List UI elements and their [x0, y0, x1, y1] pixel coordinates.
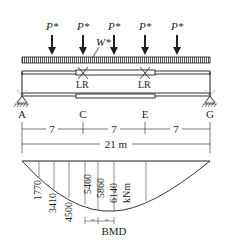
- point-loads: P* P* P* P* P*: [45, 20, 184, 55]
- bmd-value-5: 5860: [95, 178, 106, 198]
- bottom-chord-plate: [76, 94, 155, 98]
- bmd-title: BMD: [101, 225, 126, 237]
- point-load-4: P*: [138, 20, 152, 55]
- bmd-value-2: 3410: [47, 193, 58, 213]
- leader-line: [93, 47, 99, 57]
- dimension-eg: 7: [173, 123, 179, 135]
- bmd-value-4: 5460: [82, 174, 93, 194]
- node-label-a: A: [18, 108, 26, 120]
- node-label-c: C: [79, 108, 86, 120]
- dimension-labels: 7 7 7 21 m: [49, 123, 179, 150]
- pin-support-icon: [17, 96, 27, 103]
- bmd-value-3: 4500: [63, 202, 74, 222]
- node-label-g: G: [206, 108, 214, 120]
- point-load-label: P*: [138, 20, 152, 32]
- dimension-ce: 7: [111, 123, 117, 135]
- point-load-5: P*: [170, 20, 184, 55]
- arrow-down-icon: [110, 47, 118, 55]
- node-labels: A C E G: [18, 108, 214, 120]
- point-load-1: P*: [45, 20, 59, 55]
- udl-bar: [22, 57, 210, 63]
- bmd: 1770 3410 4500 5460 5860 6140 kNm w w BM…: [22, 161, 210, 237]
- lateral-restraint-label: LR: [76, 79, 89, 90]
- bmd-value-6: 6140: [108, 183, 119, 203]
- point-load-label: P*: [45, 20, 59, 32]
- beam: LR LR: [14, 67, 217, 107]
- point-load-2: P*: [76, 20, 90, 55]
- arrow-down-icon: [141, 47, 149, 55]
- bmd-unit: kNm: [121, 183, 132, 203]
- distributed-load-label: W*: [96, 36, 111, 48]
- pin-support-icon: [205, 96, 215, 103]
- arrow-down-icon: [79, 47, 87, 55]
- point-load-label: P*: [107, 20, 121, 32]
- arrow-down-icon: [48, 47, 56, 55]
- arrow-down-icon: [173, 47, 181, 55]
- beam-diagram: P* P* P* P* P* W*: [0, 0, 228, 246]
- dimension-ac: 7: [49, 123, 55, 135]
- bmd-values: 1770 3410 4500 5460 5860 6140 kNm: [32, 174, 132, 222]
- point-load-label: P*: [170, 20, 184, 32]
- lateral-restraint-label: LR: [138, 79, 151, 90]
- bmd-value-1: 1770: [32, 180, 43, 200]
- bmd-spacing-marks: [85, 217, 114, 224]
- dimension-total: 21 m: [105, 138, 128, 150]
- point-load-label: P*: [76, 20, 90, 32]
- node-label-e: E: [142, 108, 149, 120]
